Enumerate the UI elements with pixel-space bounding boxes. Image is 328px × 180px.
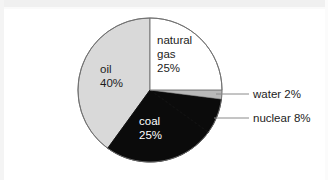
slice-label-coal-line1: coal — [139, 115, 160, 127]
pie-chart-svg: natural gas 25% oil 40% coal 25% water 2… — [0, 0, 328, 180]
slice-label-coal-line2: 25% — [139, 129, 162, 141]
slice-label-oil-line1: oil — [100, 63, 112, 75]
slice-label-natural-gas-line1: natural — [157, 34, 192, 46]
slice-label-natural-gas-line2: gas — [157, 48, 176, 60]
pie-chart-figure: natural gas 25% oil 40% coal 25% water 2… — [0, 0, 328, 180]
slice-label-oil-line2: 40% — [100, 77, 123, 89]
callout-label-water: water 2% — [252, 88, 301, 100]
slice-label-natural-gas-line3: 25% — [157, 62, 180, 74]
callout-label-nuclear: nuclear 8% — [253, 112, 311, 124]
